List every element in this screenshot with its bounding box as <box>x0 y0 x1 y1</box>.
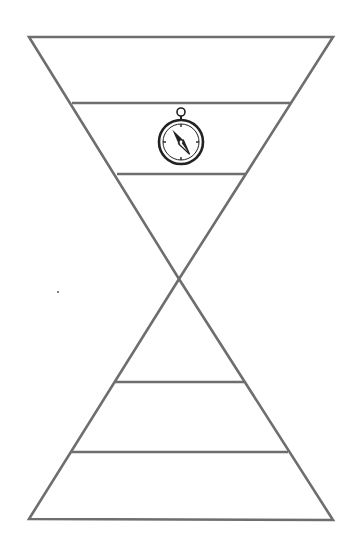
hourglass-diagram <box>0 0 363 554</box>
speck <box>57 291 59 293</box>
bottom-pyramid-outline <box>29 279 333 520</box>
compass-icon <box>159 108 203 164</box>
